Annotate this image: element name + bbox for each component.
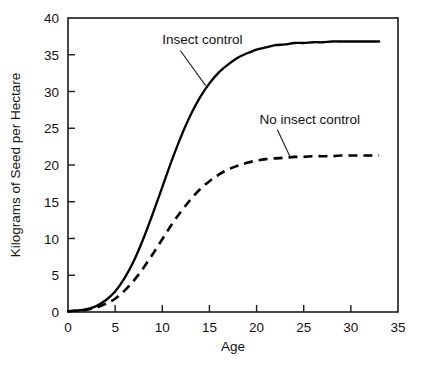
chart-figure: 0510152025303540 05101520253035 Insect c… xyxy=(0,0,421,368)
x-tick-label: 10 xyxy=(155,320,170,335)
series-annotation-label: No insect control xyxy=(259,112,360,127)
series-annotation-label: Insect control xyxy=(162,32,242,47)
y-tick-label: 20 xyxy=(44,158,59,173)
y-tick-label: 30 xyxy=(44,85,59,100)
y-tick-label: 0 xyxy=(51,305,59,320)
seed-yield-line-chart: 0510152025303540 05101520253035 Insect c… xyxy=(0,0,421,368)
y-tick-label: 25 xyxy=(44,121,59,136)
x-tick-label: 20 xyxy=(249,320,264,335)
y-axis-title: Kilograms of Seed per Hectare xyxy=(8,73,23,258)
x-tick-label: 15 xyxy=(202,320,217,335)
y-tick-label: 35 xyxy=(44,48,59,63)
x-tick-label: 30 xyxy=(343,320,358,335)
x-axis-title: Age xyxy=(221,339,245,354)
x-tick-label: 5 xyxy=(111,320,119,335)
y-tick-label: 10 xyxy=(44,232,59,247)
x-tick-label: 25 xyxy=(296,320,311,335)
x-tick-label: 35 xyxy=(390,320,405,335)
y-tick-label: 5 xyxy=(51,268,59,283)
x-tick-label: 0 xyxy=(64,320,72,335)
y-tick-label: 40 xyxy=(44,11,59,26)
y-tick-label: 15 xyxy=(44,195,59,210)
